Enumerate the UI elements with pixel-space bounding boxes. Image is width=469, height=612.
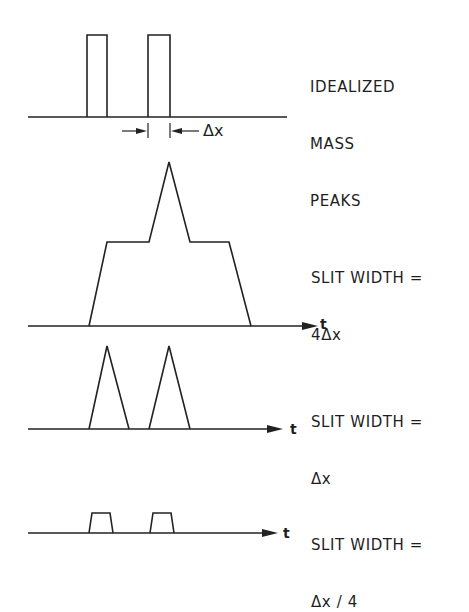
label-line: SLIT WIDTH = <box>311 536 423 555</box>
label-line: Δx <box>311 470 423 489</box>
label-line: SLIT WIDTH = <box>311 269 423 288</box>
triangle-peak-1 <box>89 346 129 429</box>
label-line: PEAKS <box>310 192 395 211</box>
triangle-peak-2 <box>149 346 190 429</box>
small-trapezoid-peak-1 <box>89 513 113 533</box>
label-idealized: IDEALIZED MASS PEAKS <box>310 40 395 230</box>
label-slit-dx4: SLIT WIDTH = Δx / 4 <box>311 498 423 612</box>
label-line: 4Δx <box>311 326 423 345</box>
dimension-arrow-right-head <box>171 128 182 134</box>
label-slit-4dx: SLIT WIDTH = 4Δx <box>311 231 423 364</box>
axis-label-t: t <box>283 525 290 541</box>
label-line: IDEALIZED <box>310 78 395 97</box>
small-trapezoid-peak-2 <box>150 513 174 533</box>
panel-slit-dx-graphic <box>28 346 283 433</box>
axis-label-t: t <box>290 421 297 437</box>
merged-peak-trapezoid <box>89 162 251 326</box>
axis-label-t: t <box>320 316 327 332</box>
dimension-arrow-left-head <box>136 128 147 134</box>
label-line: Δx / 4 <box>311 593 423 612</box>
rect-peak-1 <box>87 35 107 117</box>
time-axis-arrowhead-dx <box>267 425 283 433</box>
panel-slit-4dx-graphic <box>28 162 318 330</box>
label-line: SLIT WIDTH = <box>311 413 423 432</box>
panel-idealized-graphic <box>28 35 287 138</box>
time-axis-arrowhead-dx4 <box>262 529 278 537</box>
panel-slit-dx4-graphic <box>28 513 278 537</box>
label-line: MASS <box>310 135 395 154</box>
label-slit-dx: SLIT WIDTH = Δx <box>311 375 423 508</box>
dimension-label-dx: Δx <box>203 121 223 140</box>
rect-peak-2 <box>148 35 170 117</box>
